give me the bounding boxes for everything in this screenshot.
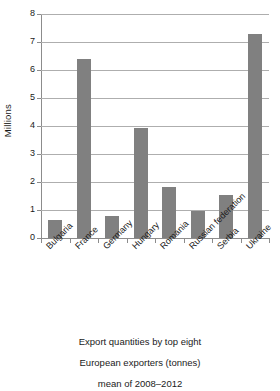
y-axis-tick-label: 1 bbox=[13, 205, 35, 214]
gridline bbox=[41, 182, 269, 183]
y-axis-tick-label: 4 bbox=[13, 121, 35, 130]
gridline bbox=[41, 98, 269, 99]
gridline bbox=[41, 70, 269, 71]
figure-caption: Export quantities by top eightEuropean e… bbox=[0, 331, 280, 391]
gridline bbox=[41, 42, 269, 43]
y-axis-tick-label: 7 bbox=[13, 37, 35, 46]
gridline bbox=[41, 14, 269, 15]
y-axis-tick-label: 8 bbox=[13, 9, 35, 18]
y-axis-tick-label: 6 bbox=[13, 65, 35, 74]
caption-line: Export quantities by top eight bbox=[0, 331, 280, 352]
bar bbox=[77, 59, 91, 238]
gridline bbox=[41, 154, 269, 155]
x-axis-category-labels: BulgariaFranceGermanyHungaryRomaniaRussi… bbox=[0, 238, 280, 328]
chart-figure: Millions 012345678 BulgariaFranceGermany… bbox=[0, 0, 280, 391]
gridline bbox=[41, 126, 269, 127]
bar bbox=[134, 128, 148, 238]
y-axis-tick-label: 3 bbox=[13, 149, 35, 158]
caption-line: European exporters (tonnes) bbox=[0, 352, 280, 373]
caption-line: mean of 2008–2012 bbox=[0, 373, 280, 391]
bar bbox=[248, 34, 262, 238]
y-axis-tick-label: 5 bbox=[13, 93, 35, 102]
y-axis-tick-label: 2 bbox=[13, 177, 35, 186]
